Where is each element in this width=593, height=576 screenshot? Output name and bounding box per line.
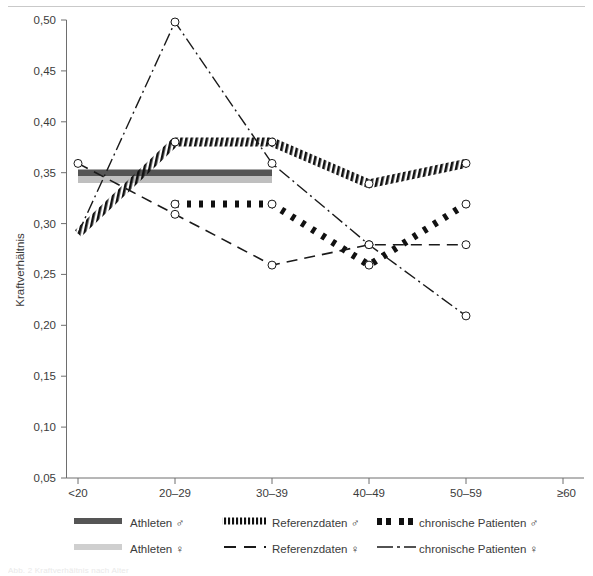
y-tick-label: 0,20 (34, 319, 56, 331)
x-tick-label: 40–49 (353, 487, 385, 499)
y-tick-label: 0,50 (34, 14, 56, 26)
figure-container: 0,50 0,45 0,40 0,35 0,30 0,25 0,20 0,15 … (0, 0, 593, 576)
legend-swatch-athleten-w (74, 544, 122, 550)
y-tick-labels: 0,50 0,45 0,40 0,35 0,30 0,25 0,20 0,15 … (34, 14, 56, 484)
series-chronische-patienten-w (78, 18, 470, 320)
legend-label-athleten-m: Athleten ♂ (130, 517, 184, 529)
y-tick-label: 0,25 (34, 268, 56, 280)
series-athleten-w (78, 175, 272, 183)
legend-swatch-chronische-patienten-m (377, 518, 413, 525)
legend-swatch-athleten-m (74, 518, 122, 524)
y-tick-label: 0,15 (34, 370, 56, 382)
x-tick-label: 20–29 (159, 487, 191, 499)
y-tick-label: 0,35 (34, 167, 56, 179)
y-tick-label: 0,05 (34, 472, 56, 484)
y-axis: 0,50 0,45 0,40 0,35 0,30 0,25 0,20 0,15 … (14, 14, 67, 484)
figure-caption: Abb. 2 Kraftverhältnis nach Alter (8, 566, 585, 575)
chart-svg: 0,50 0,45 0,40 0,35 0,30 0,25 0,20 0,15 … (0, 0, 593, 576)
chart-legend: Athleten ♂ Referenzdaten ♂ chronische Pa… (74, 517, 538, 555)
x-tick-labels: <20 20–29 30–39 40–49 50–59 ≥60 (68, 487, 576, 499)
series-chronische-patienten-m (171, 200, 470, 269)
series-markers (171, 200, 470, 269)
x-tick-label: <20 (68, 487, 88, 499)
x-tick-label: 30–39 (256, 487, 288, 499)
legend-label-chronische-patienten-m: chronische Patienten ♂ (419, 517, 538, 529)
x-axis: <20 20–29 30–39 40–49 50–59 ≥60 (67, 478, 585, 499)
x-tick-label: 50–59 (450, 487, 482, 499)
y-tick-label: 0,45 (34, 65, 56, 77)
y-tick-label: 0,40 (34, 116, 56, 128)
legend-label-referenzdaten-w: Referenzdaten ♀ (272, 543, 359, 555)
legend-label-referenzdaten-m: Referenzdaten ♂ (272, 517, 359, 529)
legend-label-athleten-w: Athleten ♀ (130, 543, 184, 555)
x-tick-label: ≥60 (557, 487, 576, 499)
legend-swatch-referenzdaten-m (222, 518, 266, 525)
series-referenzdaten-m (78, 138, 470, 234)
legend-label-chronische-patienten-w: chronische Patienten ♀ (419, 543, 538, 555)
y-tick-label: 0,10 (34, 421, 56, 433)
y-tick-label: 0,30 (34, 218, 56, 230)
x-tick-marks (78, 478, 563, 484)
y-tick-marks (61, 20, 67, 478)
y-axis-title: Kraftverhältnis (14, 233, 26, 307)
